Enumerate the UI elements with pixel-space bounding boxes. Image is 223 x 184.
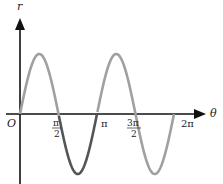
r-axis-arrow-icon bbox=[15, 18, 25, 30]
theta-axis-arrow-icon bbox=[194, 109, 206, 119]
polar-graph: r θ O π 2 π 3π 2 2π bbox=[0, 0, 223, 184]
tick-pi: π bbox=[101, 118, 108, 129]
r-axis-label: r bbox=[17, 0, 23, 13]
origin-label: O bbox=[7, 117, 16, 130]
theta-axis-label: θ bbox=[210, 107, 217, 120]
svg-text:π: π bbox=[53, 118, 59, 128]
tick-two-pi: 2π bbox=[181, 118, 194, 129]
svg-text:2: 2 bbox=[54, 129, 60, 139]
svg-text:2: 2 bbox=[131, 129, 137, 139]
curve-highlight bbox=[59, 114, 97, 174]
svg-text:3π: 3π bbox=[127, 118, 139, 128]
